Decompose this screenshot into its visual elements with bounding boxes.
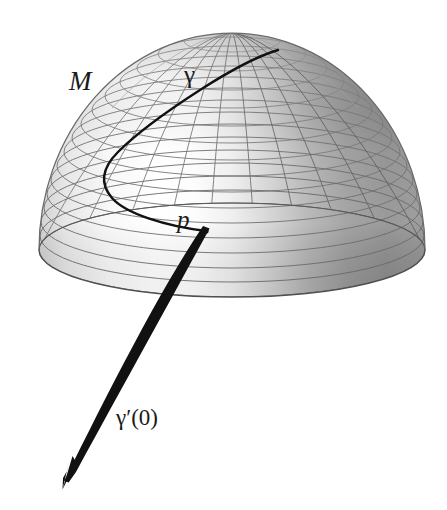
label-curve-gamma: γ (184, 62, 195, 87)
dome-vertical-shading (39, 33, 425, 297)
manifold-diagram-svg (0, 0, 447, 510)
label-manifold-M: M (69, 68, 92, 95)
figure-canvas: M γ p γ′(0) (0, 0, 447, 510)
manifold-surface (39, 33, 425, 297)
arrow-head (63, 456, 80, 490)
label-point-p: p (177, 207, 190, 232)
label-tangent-vector: γ′(0) (116, 406, 158, 429)
